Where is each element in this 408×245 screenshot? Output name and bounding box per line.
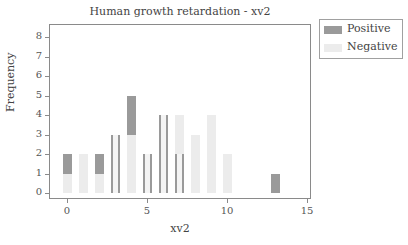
- y-tick-label: 6: [30, 69, 42, 80]
- y-tick-mark: [45, 174, 49, 175]
- x-tick-label: 15: [297, 205, 317, 216]
- y-tick-label: 1: [30, 167, 42, 178]
- y-tick-label: 3: [30, 128, 42, 139]
- y-tick-mark: [45, 57, 49, 58]
- bar-negative: [223, 154, 232, 193]
- bar-outlined: [159, 115, 168, 193]
- y-tick-label: 8: [30, 30, 42, 41]
- bar-negative: [63, 174, 72, 194]
- bar-negative: [191, 135, 200, 194]
- x-tick-label: 5: [137, 205, 157, 216]
- y-tick-label: 2: [30, 147, 42, 158]
- legend: Positive Negative: [319, 19, 403, 59]
- x-tick-mark: [147, 199, 148, 203]
- bar-outlined: [143, 154, 152, 193]
- y-tick-mark: [45, 37, 49, 38]
- y-tick-label: 0: [30, 186, 42, 197]
- bar-negative: [127, 135, 136, 194]
- x-tick-label: 0: [57, 205, 77, 216]
- x-tick-mark: [67, 199, 68, 203]
- x-axis-label: xv2: [0, 222, 360, 235]
- legend-label: Positive: [347, 22, 390, 35]
- bar-negative: [95, 174, 104, 194]
- positive-swatch-icon: [324, 26, 342, 34]
- x-tick-label: 10: [217, 205, 237, 216]
- bar-outlined: [175, 154, 184, 193]
- y-tick-mark: [45, 96, 49, 97]
- bar-negative: [79, 154, 88, 193]
- bar-positive: [95, 154, 104, 174]
- bar-outlined: [111, 135, 120, 194]
- x-tick-mark: [307, 199, 308, 203]
- bar-positive: [127, 96, 136, 135]
- y-tick-mark: [45, 154, 49, 155]
- chart-title: Human growth retardation - xv2: [0, 5, 360, 18]
- negative-swatch-icon: [324, 44, 342, 52]
- legend-label: Negative: [347, 40, 397, 53]
- y-tick-mark: [45, 115, 49, 116]
- y-tick-mark: [45, 76, 49, 77]
- y-axis-label: Frequency: [4, 53, 17, 113]
- bar-negative: [207, 115, 216, 193]
- y-tick-label: 4: [30, 108, 42, 119]
- x-tick-mark: [227, 199, 228, 203]
- y-tick-label: 7: [30, 50, 42, 61]
- y-tick-mark: [45, 193, 49, 194]
- y-tick-mark: [45, 135, 49, 136]
- bar-positive: [63, 154, 72, 174]
- bar-positive: [271, 174, 280, 194]
- y-tick-label: 5: [30, 89, 42, 100]
